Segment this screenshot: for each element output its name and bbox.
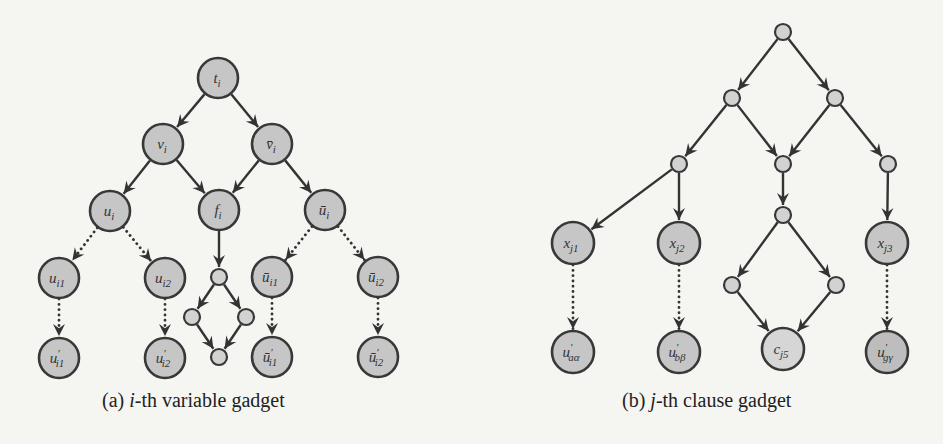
node-ubarp_i1: ū′i1 [252,337,292,377]
node-t_i: ti [198,58,238,98]
unlabeled-node-circle [775,156,791,172]
unlabeled-node-circle [828,277,844,293]
unlabeled-node-circle [238,309,254,325]
caption-variable-gadget: (a) i-th variable gadget [102,389,285,412]
caption-text: -th clause gadget [656,389,792,411]
node-vbar_i: v̄i [252,124,292,164]
node-ubar_i1: ūi1 [252,257,292,297]
node-up_gg: u′gγ [866,331,908,373]
edge-r1l-to-r2m [738,105,777,156]
node-s_bottom [211,349,227,365]
arrowhead-icon [139,248,151,261]
edge-r1l-to-r2l [685,105,726,156]
edge-r2l-to-x_j1 [591,169,671,229]
node-r1r [827,90,843,106]
variable-gadget-panel: tiviv̄iuifiūiui1ui2ūi1ūi2u′i1u′i2ū′i… [39,58,398,378]
node-s_top [211,269,227,285]
node-c_j5: cj5 [762,328,804,370]
node-x_j3: xj3 [866,222,908,264]
node-r2r [880,156,896,172]
node-up_i2: u′i2 [145,338,185,378]
gadget-diagram: tiviv̄iuifiūiui1ui2ūi1ūi2u′i1u′i2ū′i… [0,0,943,444]
node-r1l [724,90,740,106]
node-ubar_i2: ūi2 [358,257,398,297]
edge-r1r-to-r2r [841,105,882,156]
node-u_i2: ui2 [145,258,185,298]
node-u_i: ui [90,191,130,231]
unlabeled-node-circle [827,90,843,106]
node-x_j1: xj1 [552,222,594,264]
node-up_bb: u′bβ [658,331,700,373]
unlabeled-node-circle [724,90,740,106]
clause-gadget-nodes: xj1xj2xj3cj5u′aαu′bβu′gγ [552,24,908,373]
caption-prefix: (a) [102,389,129,411]
node-ubar_i: ūi [305,190,345,230]
node-r3m [775,207,791,223]
caption-prefix: (b) [622,389,650,411]
variable-gadget-nodes: tiviv̄iuifiūiui1ui2ūi1ūi2u′i1u′i2ū′i… [39,58,398,378]
caption-clause-gadget: (b) j-th clause gadget [622,389,791,412]
node-r2m [775,156,791,172]
unlabeled-node-circle [724,277,740,293]
node-d_left [724,277,740,293]
unlabeled-node-circle [184,309,200,325]
caption-text: -th variable gadget [135,389,285,411]
node-u_i1: ui1 [39,258,79,298]
unlabeled-node-circle [880,156,896,172]
node-f_i: fi [199,190,239,230]
edge-r0-to-r1r [789,39,829,90]
unlabeled-node-circle [775,207,791,223]
unlabeled-node-circle [211,349,227,365]
node-v_i: vi [143,124,183,164]
node-ubarp_i2: ū′i2 [358,337,398,377]
unlabeled-node-circle [211,269,227,285]
unlabeled-node-circle [671,156,687,172]
edge-r3m-to-d_left [738,222,778,277]
node-up_i1: u′i1 [39,338,79,378]
edge-r0-to-r1l [738,39,777,90]
clause-gadget-panel: xj1xj2xj3cj5u′aαu′bβu′gγ [552,24,908,373]
node-s_left [184,309,200,325]
node-up_aa: u′aα [552,331,594,373]
node-d_right [828,277,844,293]
node-x_j2: xj2 [658,222,700,264]
node-r2l [671,156,687,172]
edge-r1r-to-r2m [789,105,829,156]
node-r0 [775,24,791,40]
node-s_right [238,309,254,325]
unlabeled-node-circle [775,24,791,40]
edge-r3m-to-d_right [788,222,830,277]
